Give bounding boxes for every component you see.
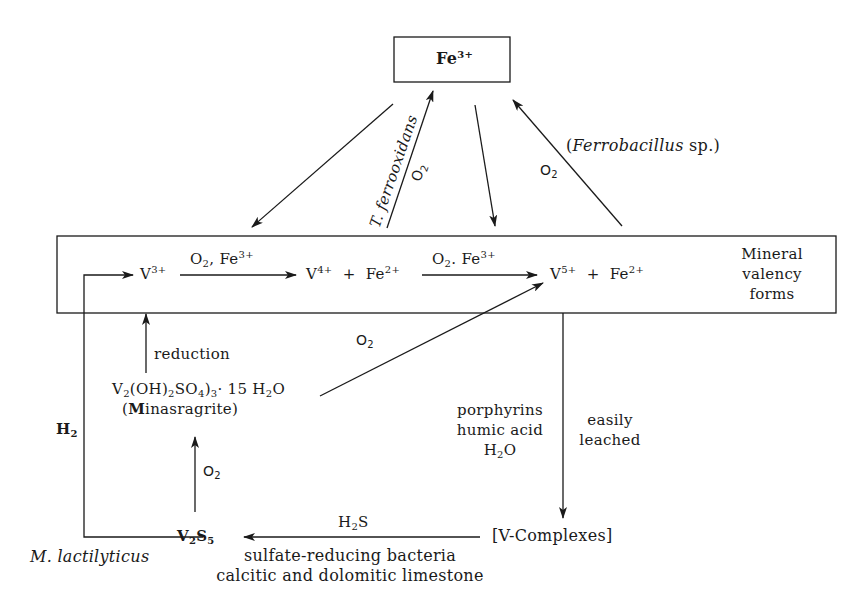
v5-fe2-label: V5+ + Fe2+ — [550, 265, 644, 283]
v3-label: V3+ — [140, 265, 166, 283]
fe-text: Fe — [461, 250, 480, 268]
minasragrite-name: (Minasragrite) — [122, 400, 238, 418]
o-text: O — [203, 463, 214, 479]
leached-line: easily — [570, 410, 650, 430]
minasragrite-formula: V2(OH)2SO4)3· 15 H2O — [112, 380, 285, 398]
v3-to-v4-condition: O2, Fe3+ — [190, 250, 254, 268]
ferrobacillus-label: (Ferrobacillus sp.) — [566, 137, 720, 155]
fe3-label: Fe3+ — [436, 50, 473, 68]
v-text: V — [112, 380, 123, 398]
o-sub: 2 — [367, 339, 374, 350]
mineral-valency-forms-label: Mineral valency forms — [722, 244, 822, 304]
v-charge: 3+ — [151, 264, 166, 275]
fe-charge: 3+ — [481, 249, 496, 260]
o-text: O — [190, 250, 203, 268]
label-line: valency — [722, 264, 822, 284]
o-text: O — [540, 162, 551, 178]
o2-ferrobacillus-label: O2 — [540, 161, 558, 179]
fe-charge: 2+ — [629, 264, 644, 275]
h-text: H — [338, 513, 351, 531]
v4-fe2-label: V4+ + Fe2+ — [306, 265, 400, 283]
ferrobacillus-rest: sp.) — [684, 136, 720, 155]
o-text: O — [504, 441, 517, 459]
reduction-label: reduction — [154, 345, 230, 363]
v-complexes-label: [V-Complexes] — [492, 527, 612, 545]
sub: 5 — [207, 535, 214, 546]
plus: + — [343, 265, 356, 283]
m-lactilyticus-label: M. lactilyticus — [30, 548, 149, 566]
h-sub: 2 — [70, 428, 77, 439]
v-text: V — [177, 527, 189, 545]
organics-label: porphyrins humic acid H2O — [445, 400, 555, 460]
sub: 2 — [123, 388, 130, 399]
arrow-fe3-to-v5 — [475, 105, 495, 226]
sep: . — [451, 250, 456, 268]
condition-line: calcitic and dolomitic limestone — [200, 566, 500, 586]
h-text: H — [56, 420, 70, 438]
so-text: SO — [175, 380, 198, 398]
v-charge: 4+ — [317, 264, 332, 275]
s-text: S — [358, 513, 369, 531]
arrow-minasragrite-to-v5 — [320, 283, 543, 396]
label-line: forms — [722, 284, 822, 304]
v-text: V — [140, 265, 151, 283]
h2s-label: H2S — [338, 513, 369, 531]
easily-leached-label: easily leached — [570, 410, 650, 450]
rest: inasragrite) — [145, 400, 238, 418]
v-text: V — [306, 265, 317, 283]
h2-label: H2 — [56, 420, 78, 438]
organic-line-h2o: H2O — [445, 440, 555, 460]
fe-text: Fe — [366, 265, 385, 283]
plus: + — [587, 265, 600, 283]
fe-charge: 2+ — [385, 264, 400, 275]
label-line: Mineral — [722, 244, 822, 264]
h-sub: 2 — [497, 449, 504, 460]
condition-line: sulfate-reducing bacteria — [200, 546, 500, 566]
leached-line: leached — [570, 430, 650, 450]
o-sub: 2 — [551, 169, 558, 180]
sub: 2 — [168, 388, 175, 399]
h-text: H — [484, 441, 497, 459]
diagram-lines — [0, 0, 867, 610]
v2s5-label: V2S5 — [177, 527, 215, 545]
fe-text: Fe — [436, 49, 457, 68]
ferrobacillus-genus: Ferrobacillus — [573, 136, 684, 155]
v4-to-v5-condition: O2. Fe3+ — [432, 250, 496, 268]
rest: · 15 H — [217, 380, 265, 398]
sep: , — [209, 250, 214, 268]
o-text: O — [356, 332, 367, 348]
sub: 4 — [198, 388, 205, 399]
fe-charge: 3+ — [239, 249, 254, 260]
organic-line: humic acid — [445, 420, 555, 440]
v-charge: 5+ — [561, 264, 576, 275]
o2-v2s5-label: O2 — [203, 462, 221, 480]
o-text: O — [272, 380, 285, 398]
fe-text: Fe — [610, 265, 629, 283]
fe-text: Fe — [219, 250, 238, 268]
oh-text: (OH) — [130, 380, 168, 398]
bold-m: M — [128, 400, 145, 418]
o-sub: 2 — [214, 470, 221, 481]
o-text: O — [432, 250, 445, 268]
organic-line: porphyrins — [445, 400, 555, 420]
o2-minasragrite-label: O2 — [356, 331, 374, 349]
s-text: S — [196, 527, 207, 545]
bottom-conditions: sulfate-reducing bacteria calcitic and d… — [200, 546, 500, 586]
v-text: V — [550, 265, 561, 283]
arrow-ferrobacillus — [513, 100, 622, 226]
fe-charge: 3+ — [457, 49, 473, 60]
